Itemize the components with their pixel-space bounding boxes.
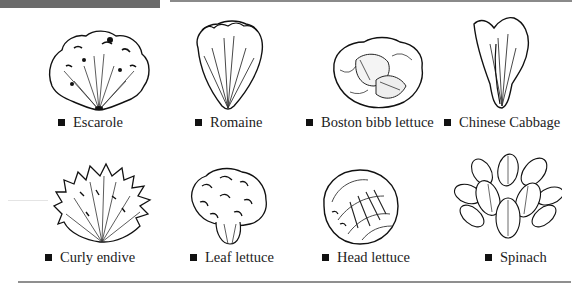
bullet-icon (444, 119, 451, 126)
bullet-icon (306, 119, 313, 126)
romaine-illustration-icon (188, 18, 268, 110)
boston-bibb-illustration-icon (330, 30, 426, 110)
chinese-cabbage-illustration-icon (468, 14, 534, 110)
spinach-illustration-icon (452, 150, 562, 240)
curly-endive-illustration-icon (50, 162, 156, 244)
label-leaf-lettuce: Leaf lettuce (190, 249, 274, 266)
label-chinese-cabbage: Chinese Cabbage (444, 114, 560, 131)
head-lettuce-illustration-icon (318, 166, 402, 246)
label-spinach: Spinach (485, 249, 547, 266)
bullet-icon (45, 254, 52, 261)
bullet-icon (195, 119, 202, 126)
label-curly-endive: Curly endive (45, 249, 135, 266)
label-boston-bibb: Boston bibb lettuce (306, 114, 434, 131)
bullet-icon (322, 254, 329, 261)
header-rule (170, 0, 572, 2)
escarole-illustration-icon (44, 26, 154, 111)
label-head-lettuce: Head lettuce (322, 249, 410, 266)
footer-rule (18, 281, 571, 283)
bullet-icon (190, 254, 197, 261)
header-accent-bar (0, 0, 160, 8)
label-romaine: Romaine (195, 114, 262, 131)
label-escarole: Escarole (58, 114, 123, 131)
leaf-lettuce-illustration-icon (186, 166, 270, 246)
bullet-icon (58, 119, 65, 126)
bullet-icon (485, 254, 492, 261)
faint-divider (8, 200, 48, 201)
